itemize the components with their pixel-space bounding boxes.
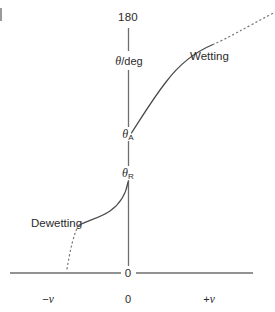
dewetting-curve-dotted (67, 226, 79, 273)
x-tick-negative-symbol: v (49, 293, 54, 305)
contact-angle-velocity-figure: 180 θ/deg θA θR Wetting Dewetting 0 −v 0… (0, 0, 275, 312)
y-axis-unit: /deg (121, 55, 142, 67)
origin-label: 0 (125, 268, 131, 280)
wetting-region-label: Wetting (190, 51, 229, 63)
theta-receding-subscript: R (128, 172, 134, 181)
theta-advancing-label: θA (122, 128, 133, 142)
x-axis-tick-zero: 0 (125, 294, 131, 305)
theta-advancing-subscript: A (128, 133, 133, 142)
dewetting-region-label: Dewetting (31, 218, 82, 230)
x-axis-tick-negative: −v (42, 294, 54, 306)
plot-canvas (0, 0, 275, 312)
y-axis-max-label: 180 (118, 12, 138, 24)
theta-receding-label: θR (122, 167, 134, 181)
wetting-curve-dotted (213, 14, 273, 45)
dewetting-curve-solid (79, 182, 129, 226)
x-tick-positive-symbol: v (210, 293, 215, 305)
y-axis-title: θ/deg (115, 55, 142, 67)
x-axis-tick-positive: +v (203, 294, 215, 306)
x-tick-zero-symbol: 0 (125, 293, 131, 305)
